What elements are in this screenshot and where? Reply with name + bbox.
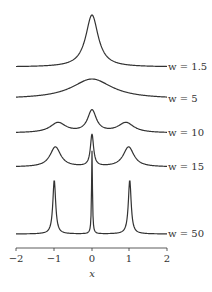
tick-neg1: −1 (47, 253, 62, 264)
x-axis-label: x (89, 268, 95, 279)
tick-0: 0 (89, 253, 95, 264)
label-w-50: w = 50 (168, 228, 204, 239)
curve-w-1-5 (16, 15, 167, 66)
tick-2: 2 (164, 253, 170, 264)
tick-1: 1 (126, 253, 132, 264)
label-w-15: w = 15 (168, 161, 204, 172)
curve-w-10 (16, 110, 167, 133)
label-w-1-5: w = 1.5 (168, 61, 207, 72)
curve-w-5 (16, 79, 167, 97)
label-w-10: w = 10 (168, 127, 204, 138)
x-axis (16, 248, 167, 251)
curve-w-50 (16, 151, 167, 234)
spectra-chart: w = 1.5 w = 5 w = 10 w = 15 w = 50 −2 −1… (0, 0, 212, 292)
tick-neg2: −2 (9, 253, 24, 264)
label-w-5: w = 5 (168, 93, 198, 104)
